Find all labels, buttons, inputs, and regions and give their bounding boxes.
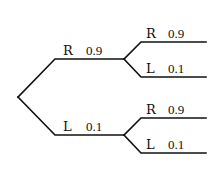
branch-l-label: L [63, 119, 72, 134]
branch-r-label: R [63, 43, 74, 58]
branch-lr-prob: 0.9 [168, 102, 184, 117]
branch-ll-prob: 0.1 [168, 137, 184, 152]
branch-lr-label: R [146, 102, 157, 117]
branch-r-line [18, 59, 124, 97]
branch-l: L 0.1 [18, 97, 124, 135]
probability-tree-diagram: R 0.9 L 0.1 R 0.9 L 0.1 R 0.9 L 0.1 [0, 0, 218, 171]
branch-rr-line [124, 42, 206, 59]
branch-rr-prob: 0.9 [168, 26, 184, 41]
branch-l-prob: 0.1 [86, 119, 102, 134]
branch-rl-line [124, 59, 206, 77]
branch-ll-label: L [146, 137, 155, 152]
branch-rl: L 0.1 [124, 59, 206, 77]
branch-r: R 0.9 [18, 43, 124, 97]
branch-lr-line [124, 118, 206, 135]
branch-r-prob: 0.9 [86, 43, 102, 58]
branch-rr-label: R [146, 26, 157, 41]
branch-rl-prob: 0.1 [168, 61, 184, 76]
branch-rl-label: L [146, 61, 155, 76]
branch-lr: R 0.9 [124, 102, 206, 135]
branch-rr: R 0.9 [124, 26, 206, 59]
branch-ll-line [124, 135, 206, 153]
branch-ll: L 0.1 [124, 135, 206, 153]
